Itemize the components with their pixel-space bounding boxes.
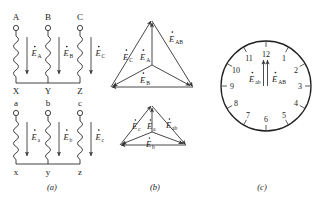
- clock-label-EAB-base: E: [271, 74, 278, 84]
- phasor-label-Ea-lower-base: E: [146, 121, 153, 131]
- clock-number-5: 5: [282, 111, 286, 120]
- clock-number-9: 9: [230, 82, 234, 91]
- terminal-label-C: C: [77, 12, 83, 22]
- phasor-label-EB-upper: E B: [139, 72, 150, 85]
- clock-number-3: 3: [298, 82, 302, 91]
- coil-winding-b: [46, 121, 51, 159]
- phasor-label-Eab-lower: E ab: [165, 118, 177, 131]
- emf-label-a: E a: [31, 129, 41, 142]
- phasor-label-EC-upper-base: E: [122, 52, 129, 62]
- coil-winding-c: [78, 121, 83, 159]
- coil-winding-B: [46, 36, 51, 77]
- clock-tick-7: [244, 120, 247, 125]
- terminal-node-B: [45, 25, 50, 30]
- terminal-label-A: A: [13, 12, 20, 22]
- terminal-label-c: c: [78, 98, 82, 108]
- clock-number-6: 6: [264, 115, 268, 124]
- coil-winding-a: [14, 121, 19, 159]
- phasor-label-EAB-upper: E AB: [168, 31, 183, 44]
- panel-caption-b: (b): [150, 182, 160, 192]
- terminal-node-b: [45, 110, 50, 115]
- phasor-label-EA-upper: E A: [139, 49, 150, 62]
- terminal-node-c: [77, 110, 82, 115]
- emf-label-B: E B: [63, 46, 74, 59]
- emf-label-c-base: E: [95, 132, 102, 142]
- clock-number-1: 1: [282, 54, 286, 63]
- emf-label-B-sub: B: [70, 53, 74, 59]
- terminal-label-Z: Z: [77, 86, 83, 96]
- clock-number-12: 12: [262, 50, 270, 59]
- phasor-label-EAB-upper-base: E: [168, 34, 175, 44]
- terminal-node-A: [13, 25, 18, 30]
- coil-winding-A: [14, 36, 19, 77]
- terminal-label-Y: Y: [45, 86, 52, 96]
- lower-phasor-triangle: E c E a E ab E b: [120, 106, 186, 150]
- emf-label-a-sub: a: [38, 137, 41, 143]
- terminal-node-C: [77, 25, 82, 30]
- phasor-label-EA-upper-base: E: [139, 52, 146, 62]
- clock-label-EAB-sub: AB: [278, 79, 286, 85]
- terminal-label-z: z: [78, 167, 82, 177]
- phasor-label-Eb-lower-sub: b: [152, 144, 155, 150]
- emf-label-c-sub: c: [102, 137, 105, 143]
- clock-label-Eab-base: E: [248, 74, 255, 84]
- phasor-label-EAB-upper-sub: AB: [175, 39, 183, 45]
- terminal-label-X: X: [13, 86, 20, 96]
- panel-caption-a: (a): [47, 182, 57, 192]
- terminal-label-B: B: [45, 12, 51, 22]
- emf-label-a-base: E: [31, 132, 38, 142]
- phasor-label-Eab-lower-sub: ab: [172, 125, 177, 131]
- phasor-label-EC-upper-sub: C: [129, 57, 133, 63]
- clock-number-10: 10: [232, 66, 240, 75]
- terminal-label-y: y: [46, 167, 51, 177]
- upper-phasor-triangle: E C E A E AB E B: [111, 21, 193, 87]
- phasor-label-EA-upper-sub: A: [146, 57, 150, 63]
- clock-tick-11: [244, 47, 247, 52]
- clock-number-7: 7: [246, 111, 250, 120]
- panel-caption-c: (c): [257, 182, 267, 192]
- panel-c-group: 1 2 3 4 5 6 7 8 9 10 11 12 E ab: [221, 41, 311, 192]
- emf-label-A-sub: A: [38, 53, 42, 59]
- phasor-label-EB-upper-base: E: [139, 75, 146, 85]
- phasor-Eb-lower: [152, 132, 183, 144]
- emf-label-A-base: E: [31, 48, 38, 58]
- clock-number-4: 4: [294, 99, 298, 108]
- clock-tick-4: [300, 106, 305, 109]
- terminal-node-a: [13, 110, 18, 115]
- emf-label-C-base: E: [95, 48, 102, 58]
- phasor-label-EC-upper: E C: [122, 49, 133, 62]
- panel-b-group: E C E A E AB E B: [111, 21, 193, 192]
- clock-label-Eab: E ab: [248, 72, 261, 85]
- terminal-label-b: b: [46, 98, 51, 108]
- phasor-label-Ec-lower-base: E: [131, 121, 138, 131]
- phasor-label-Ea-lower-sub: a: [153, 126, 156, 132]
- clock-label-Eab-sub: ab: [255, 79, 260, 85]
- emf-label-b-sub: b: [70, 137, 73, 143]
- clock-number-8: 8: [234, 99, 238, 108]
- emf-label-A: E A: [31, 46, 42, 59]
- phasor-label-Eb-lower-base: E: [145, 139, 152, 149]
- clock-tick-1: [286, 47, 289, 52]
- clock-number-2: 2: [294, 66, 298, 75]
- clock-tick-5: [286, 120, 289, 125]
- terminal-label-x: x: [14, 167, 19, 177]
- clock-numerals: 1 2 3 4 5 6 7 8 9 10 11 12: [230, 50, 302, 124]
- clock-tick-2: [300, 64, 305, 67]
- emf-label-B-base: E: [63, 48, 70, 58]
- phasor-EB-upper: [152, 65, 190, 86]
- clock-tick-8: [227, 106, 232, 109]
- figure-root: A B C X Y Z E A E B E C: [0, 0, 317, 204]
- phasor-label-Eb-lower: E b: [145, 137, 155, 150]
- clock-label-EAB: E AB: [271, 72, 286, 85]
- phasor-label-Ec-lower-sub: c: [138, 126, 141, 132]
- emf-label-C: E C: [95, 46, 106, 59]
- emf-label-b-base: E: [63, 132, 70, 142]
- clock-number-11: 11: [245, 54, 253, 63]
- coil-winding-C: [78, 36, 83, 77]
- phasor-label-Ea-lower: E a: [146, 119, 156, 132]
- phasor-label-Eab-lower-base: E: [165, 120, 172, 130]
- figure-svg: A B C X Y Z E A E B E C: [0, 0, 317, 204]
- emf-label-c: E c: [95, 129, 105, 142]
- emf-label-C-sub: C: [102, 53, 106, 59]
- triangle-edge-AB-upper: [152, 21, 193, 87]
